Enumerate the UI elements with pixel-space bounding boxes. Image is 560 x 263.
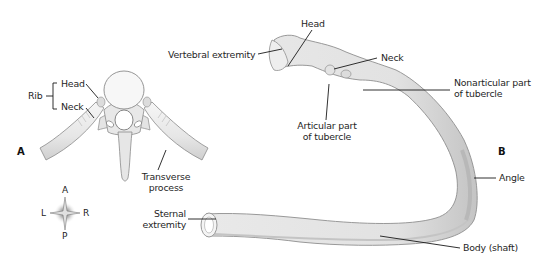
illustration-canvas bbox=[0, 0, 560, 263]
transverse-process-label-line2: process bbox=[136, 182, 196, 193]
rib-anatomy-figure: A Rib Head Neck Transverse process A P L… bbox=[0, 0, 560, 263]
compass-anterior-label: A bbox=[62, 185, 68, 195]
panel-a-head-label: Head bbox=[61, 78, 85, 89]
panel-a-neck-label: Neck bbox=[61, 101, 84, 112]
articular-part-label-line1: Articular part bbox=[287, 120, 367, 131]
articular-part-label-line2: of tubercle bbox=[287, 131, 367, 142]
angle-label: Angle bbox=[499, 172, 525, 183]
orientation-compass bbox=[50, 197, 80, 230]
panel-b-neck-label: Neck bbox=[381, 52, 404, 63]
nonarticular-part-label-line1: Nonarticular part bbox=[454, 77, 531, 88]
sternal-extremity-label: Sternal extremity bbox=[140, 208, 186, 230]
vertebral-extremity-label: Vertebral extremity bbox=[168, 49, 255, 60]
body-shaft-label: Body (shaft) bbox=[463, 242, 518, 253]
sternal-extremity-label-line1: Sternal bbox=[140, 208, 186, 219]
compass-left-label: L bbox=[41, 208, 46, 218]
rib-bracket-label: Rib bbox=[28, 90, 42, 101]
panel-a-letter: A bbox=[17, 146, 25, 157]
compass-posterior-label: P bbox=[62, 231, 67, 241]
transverse-process-label-line1: Transverse bbox=[136, 171, 196, 182]
compass-right-label: R bbox=[83, 208, 89, 218]
sternal-extremity-label-line2: extremity bbox=[140, 219, 186, 230]
panel-b-letter: B bbox=[498, 146, 506, 157]
nonarticular-part-label-line2: of tubercle bbox=[454, 88, 531, 99]
nonarticular-part-label: Nonarticular part of tubercle bbox=[454, 77, 531, 99]
articular-part-label: Articular part of tubercle bbox=[287, 120, 367, 142]
transverse-process-label: Transverse process bbox=[136, 171, 196, 193]
panel-b-head-label: Head bbox=[301, 18, 325, 29]
